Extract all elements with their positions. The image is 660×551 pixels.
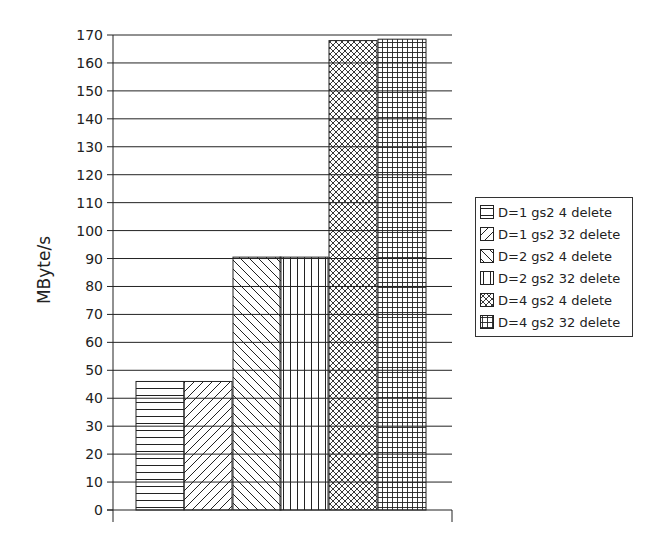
legend-swatch-icon <box>480 315 494 329</box>
y-tick-label: 150 <box>76 83 103 99</box>
bar-4 <box>280 257 328 510</box>
legend-swatch-icon <box>480 271 494 285</box>
legend-item: D=4 gs2 4 delete <box>480 289 628 311</box>
legend-label: D=4 gs2 4 delete <box>498 293 612 308</box>
y-tick-label: 140 <box>76 111 103 127</box>
y-tick-label: 70 <box>85 306 103 322</box>
bar-3 <box>233 257 281 510</box>
y-tick-label: 20 <box>85 446 103 462</box>
y-tick-label: 110 <box>76 195 103 211</box>
legend-swatch-icon <box>480 293 494 307</box>
legend-label: D=2 gs2 32 delete <box>498 271 620 286</box>
y-tick-label: 160 <box>76 55 103 71</box>
legend-swatch-icon <box>480 227 494 241</box>
legend-label: D=1 gs2 4 delete <box>498 205 612 220</box>
legend-label: D=1 gs2 32 delete <box>498 227 620 242</box>
legend-swatch-icon <box>480 205 494 219</box>
y-tick-label: 60 <box>85 334 103 350</box>
y-tick-label: 10 <box>85 474 103 490</box>
legend-swatch-icon <box>480 249 494 263</box>
y-tick-label: 80 <box>85 278 103 294</box>
y-tick-label: 120 <box>76 167 103 183</box>
y-tick-label: 30 <box>85 418 103 434</box>
bar-5 <box>329 41 377 510</box>
legend-label: D=4 gs2 32 delete <box>498 315 620 330</box>
y-tick-label: 170 <box>76 27 103 43</box>
y-tick-label: 40 <box>85 390 103 406</box>
legend-item: D=1 gs2 4 delete <box>480 201 628 223</box>
legend-item: D=2 gs2 32 delete <box>480 267 628 289</box>
chart-legend: D=1 gs2 4 deleteD=1 gs2 32 deleteD=2 gs2… <box>475 197 633 337</box>
legend-item: D=2 gs2 4 delete <box>480 245 628 267</box>
y-axis-label: MByte/s <box>34 236 54 304</box>
bar-2 <box>184 381 232 510</box>
y-tick-label: 100 <box>76 223 103 239</box>
y-tick-label: 50 <box>85 362 103 378</box>
y-tick-label: 0 <box>94 502 103 518</box>
legend-item: D=4 gs2 32 delete <box>480 311 628 333</box>
y-tick-label: 90 <box>85 251 103 267</box>
legend-item: D=1 gs2 32 delete <box>480 223 628 245</box>
bars <box>136 39 426 510</box>
y-tick-label: 130 <box>76 139 103 155</box>
legend-label: D=2 gs2 4 delete <box>498 249 612 264</box>
bar-6 <box>378 39 426 510</box>
bar-1 <box>136 381 184 510</box>
